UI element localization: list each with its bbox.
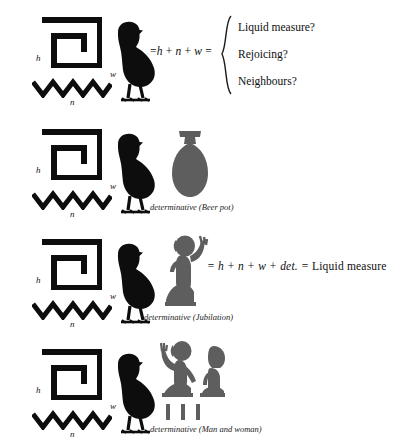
option-liquid-measure: Liquid measure? [238, 14, 315, 41]
phonetic-cluster: h n w [28, 346, 158, 442]
sign-label-w: w [110, 70, 116, 79]
chart-row-liquid-measure: h n w [0, 112, 413, 222]
water-ripple-glyph [32, 298, 112, 320]
twisted-flax-wick-glyph [40, 16, 102, 68]
phonetic-cluster: h n w [28, 14, 158, 110]
phonetic-cluster: h n w [28, 126, 158, 222]
sign-label-n: n [70, 320, 75, 329]
option-rejoicing: Rejoicing? [238, 41, 315, 68]
twisted-flax-wick-glyph [40, 238, 102, 290]
sign-label-h: h [36, 54, 41, 63]
chart-row-neighbours: h n w [0, 332, 413, 442]
term-w: w [194, 45, 202, 57]
plural-stroke [166, 404, 170, 420]
twisted-flax-wick-glyph [40, 348, 102, 400]
term-h: h [157, 45, 163, 57]
sign-label-n: n [70, 430, 75, 439]
equation-ambiguous: =h + n + w = [150, 45, 212, 57]
plural-stroke [181, 404, 185, 420]
determinative-caption: determinative (Jubilation) [144, 312, 233, 322]
twisted-flax-wick-glyph [40, 128, 102, 180]
sign-label-n: n [70, 98, 75, 107]
brace-icon [218, 14, 234, 96]
sign-label-h: h [36, 276, 41, 285]
equals-sign-1: = [150, 45, 157, 57]
chart-row-ambiguous: h n w =h + n + w = [0, 0, 413, 110]
sign-label-w: w [110, 292, 116, 301]
water-ripple-glyph [32, 76, 112, 98]
phonetic-cluster: h n w [28, 236, 158, 332]
water-ripple-glyph [32, 408, 112, 430]
determinative-caption: determinative (Man and woman) [150, 424, 262, 434]
man-and-woman-glyph [158, 340, 236, 406]
sign-label-h: h [36, 166, 41, 175]
beer-pot-glyph [168, 128, 212, 204]
water-ripple-glyph [32, 188, 112, 210]
sign-label-h: h [36, 386, 41, 395]
meaning-options-list: Liquid measure? Rejoicing? Neighbours? [238, 14, 315, 95]
plural-strokes [166, 404, 200, 420]
sign-label-w: w [110, 402, 116, 411]
plus-sign-1: + [166, 45, 173, 57]
sign-label-w: w [110, 182, 116, 191]
chart-row-rejoicing: h n w [0, 222, 413, 332]
determinative-caption: determinative (Beer pot) [150, 202, 234, 212]
term-n: n [175, 45, 181, 57]
plural-stroke [196, 404, 200, 420]
jubilation-figure-glyph [160, 234, 216, 316]
sign-label-n: n [70, 210, 75, 219]
option-neighbours: Neighbours? [238, 68, 315, 95]
plus-sign-2: + [185, 45, 192, 57]
equals-sign-2: = [205, 45, 212, 57]
quail-chick-glyph [110, 18, 162, 106]
hieroglyph-chart: h n w =h + n + w = [0, 0, 413, 442]
